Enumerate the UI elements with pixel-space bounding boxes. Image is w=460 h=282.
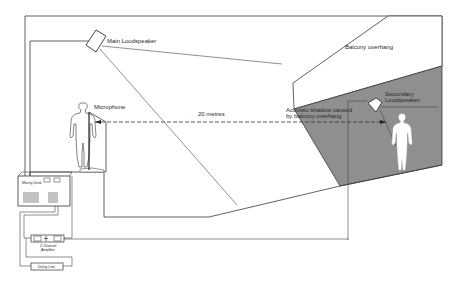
sound-rays xyxy=(100,46,282,205)
mixing-desk-label: Mixing Desk xyxy=(22,181,42,185)
arrow-left-icon xyxy=(95,120,101,124)
mixing-desk[interactable]: Mixing Desk xyxy=(18,172,72,206)
amplifier-label-2: Amplifier xyxy=(41,248,56,252)
balcony-overhang-label: Balcony overhang xyxy=(345,44,393,50)
person-icon xyxy=(70,103,96,167)
delay-line-label: Delay Line xyxy=(38,265,55,269)
acoustic-shadow-label-2: by balcony overhang xyxy=(286,113,341,119)
delay-line[interactable]: Delay Line xyxy=(31,263,63,270)
main-loudspeaker-label: Main Loudspeaker xyxy=(107,38,156,44)
secondary-loudspeaker-label-2: Loudspeaker xyxy=(385,97,420,103)
distance-label: 20 metres xyxy=(198,111,225,117)
presenter-figure: Microphone xyxy=(70,103,126,170)
loudspeaker-icon xyxy=(86,30,106,52)
sound-system-diagram: Main Loudspeaker Microphone 20 metres Ba… xyxy=(0,0,460,282)
microphone-label: Microphone xyxy=(94,104,126,110)
amplifier[interactable]: 2 Channel Amplifier xyxy=(31,235,64,252)
main-loudspeaker: Main Loudspeaker xyxy=(86,30,156,52)
